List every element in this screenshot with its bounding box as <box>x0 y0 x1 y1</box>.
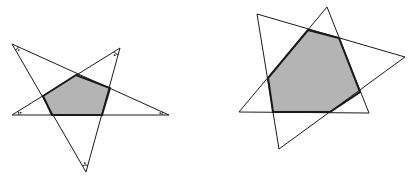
diagram-canvas <box>0 0 413 181</box>
angle-tick <box>20 112 22 114</box>
angle-tick <box>84 162 86 164</box>
inner-pentagon <box>43 75 110 115</box>
angle-tick <box>114 54 116 56</box>
angle-tick <box>159 112 161 114</box>
angle-arc <box>18 111 19 115</box>
angle-arc <box>82 165 87 166</box>
pentagram-figure <box>12 44 169 172</box>
diagram-svg <box>0 0 413 181</box>
angle-tick <box>18 49 20 51</box>
two-triangles-figure <box>239 7 405 149</box>
angle-arc <box>114 52 118 55</box>
